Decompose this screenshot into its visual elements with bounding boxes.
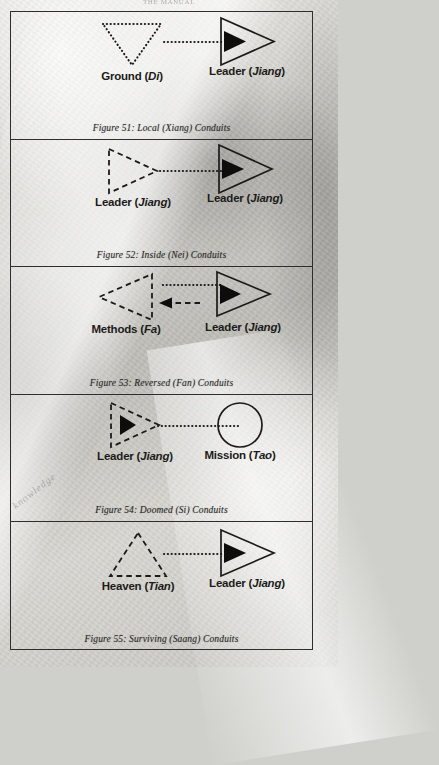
triangle-right-leader-icon [216, 15, 278, 67]
figure-53-diagram: Methods (Fa) Leader (Jiang) [11, 267, 312, 353]
node-label: Leader (Jiang) [209, 65, 285, 77]
circle-mission-icon [214, 401, 266, 451]
node-leader-jiang-52-right: Leader (Jiang) [214, 142, 276, 194]
node-label: Leader (Jiang) [97, 450, 173, 462]
figures-frame: Ground (Di) Leader (Jiang) Figure 51: Lo… [10, 11, 313, 650]
figure-panel-52: Leader (Jiang) Leader (Jiang) Figure 52:… [11, 140, 312, 268]
triangle-right-dashed-icon [104, 146, 162, 196]
figure-caption: Figure 55: Surviving (Saang) Conduits [11, 634, 312, 644]
figure-panel-55: Heaven (Tian) Leader (Jiang) Figure 55: … [11, 522, 312, 650]
figure-54-diagram: Leader (Jiang) Mission (Tao) [11, 395, 312, 481]
node-label: Leader (Jiang) [209, 577, 285, 589]
node-label: Methods (Fa) [91, 323, 160, 335]
node-label: Leader (Jiang) [95, 196, 171, 208]
running-header: THE MANUAL [0, 0, 338, 6]
figure-55-diagram: Heaven (Tian) Leader (Jiang) [11, 522, 312, 608]
node-label: Mission (Tao) [204, 449, 275, 461]
node-methods-fa: Methods (Fa) [95, 271, 157, 323]
triangle-right-leader-icon [212, 269, 274, 321]
triangle-left-dashed-icon [95, 271, 157, 323]
connector-dashed-arrow-left-53 [157, 295, 201, 311]
figure-52-diagram: Leader (Jiang) Leader (Jiang) [11, 140, 312, 226]
node-heaven-tian: Heaven (Tian) [106, 530, 170, 580]
node-label: Leader (Jiang) [205, 321, 281, 333]
node-mission-tao: Mission (Tao) [214, 401, 266, 451]
node-leader-jiang-55: Leader (Jiang) [216, 527, 278, 579]
node-ground-di: Ground (Di) [99, 20, 165, 68]
figure-panel-54: knowledge Leader (Jiang) Mission (Tao) F… [11, 395, 312, 523]
figure-panel-51: Ground (Di) Leader (Jiang) Figure 51: Lo… [11, 12, 312, 140]
node-leader-jiang-54: Leader (Jiang) [106, 400, 164, 450]
figure-panel-53: Methods (Fa) Leader (Jiang) Figure 53: R… [11, 267, 312, 395]
node-label: Ground (Di) [101, 70, 163, 82]
node-leader-jiang-51: Leader (Jiang) [216, 15, 278, 67]
figure-caption: Figure 52: Inside (Nei) Conduits [11, 250, 312, 260]
node-label: Leader (Jiang) [207, 192, 283, 204]
triangle-up-dashed-icon [106, 530, 170, 580]
triangle-right-leader-icon [214, 142, 276, 194]
node-leader-jiang-53: Leader (Jiang) [212, 269, 274, 321]
figure-caption: Figure 51: Local (Xiang) Conduits [11, 123, 312, 133]
node-leader-jiang-52-left: Leader (Jiang) [104, 146, 162, 196]
triangle-right-dashed-with-arrowhead-icon [106, 400, 164, 450]
figure-caption: Figure 53: Reversed (Fan) Conduits [11, 378, 312, 388]
triangle-down-dotted-icon [99, 20, 165, 68]
figure-51-diagram: Ground (Di) Leader (Jiang) [11, 12, 312, 98]
triangle-right-leader-icon [216, 527, 278, 579]
figure-caption: Figure 54: Doomed (Si) Conduits [11, 505, 312, 515]
node-label: Heaven (Tian) [102, 580, 175, 592]
